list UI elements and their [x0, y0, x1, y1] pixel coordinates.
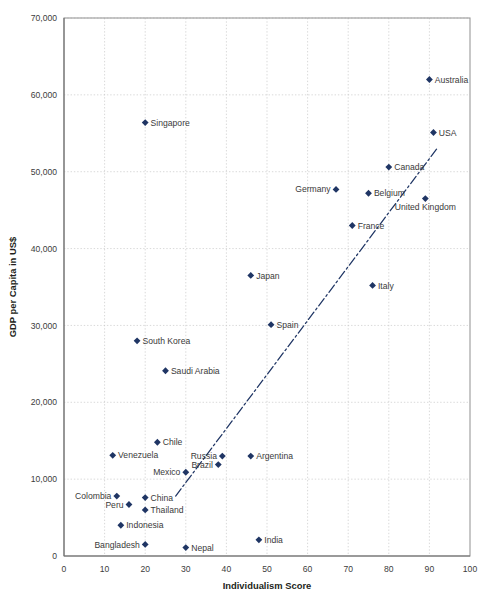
- point-label: India: [264, 535, 283, 545]
- data-point: Bangladesh: [94, 540, 148, 550]
- point-label: Mexico: [153, 467, 180, 477]
- y-tick-label: 40,000: [31, 244, 58, 254]
- point-marker: [385, 164, 392, 171]
- data-point: USA: [430, 128, 457, 138]
- point-marker: [142, 506, 149, 513]
- y-tick-label: 0: [52, 551, 57, 561]
- data-point: Argentina: [247, 451, 293, 461]
- data-point: Canada: [385, 162, 424, 172]
- point-marker: [142, 494, 149, 501]
- point-label: Indonesia: [126, 520, 163, 530]
- y-tick-label: 60,000: [31, 90, 58, 100]
- point-label: United Kingdom: [395, 202, 456, 212]
- point-marker: [134, 337, 141, 344]
- point-label: Nepal: [191, 543, 214, 553]
- point-label: Singapore: [151, 118, 190, 128]
- x-tick-label: 60: [303, 564, 313, 574]
- point-marker: [247, 272, 254, 279]
- data-point: Nepal: [182, 543, 213, 553]
- point-marker: [369, 282, 376, 289]
- data-point: Indonesia: [117, 520, 163, 530]
- point-label: Belgium: [374, 188, 405, 198]
- y-tick-label: 50,000: [31, 167, 58, 177]
- point-label: Germany: [295, 184, 331, 194]
- point-label: Chile: [163, 437, 183, 447]
- point-label: Brazil: [191, 460, 213, 470]
- point-marker: [247, 453, 254, 460]
- point-marker: [162, 367, 169, 374]
- x-tick-label: 50: [262, 564, 272, 574]
- point-marker: [219, 453, 226, 460]
- trendline: [176, 148, 438, 496]
- point-marker: [154, 439, 161, 446]
- point-marker: [333, 186, 340, 193]
- data-point: South Korea: [134, 336, 191, 346]
- point-label: USA: [439, 128, 457, 138]
- point-label: South Korea: [142, 336, 190, 346]
- plot-frame: [64, 18, 470, 556]
- scatter-chart: 010,00020,00030,00040,00050,00060,00070,…: [0, 0, 487, 597]
- point-marker: [255, 536, 262, 543]
- data-point: Italy: [369, 281, 394, 291]
- point-label: Italy: [378, 281, 394, 291]
- data-point: Japan: [247, 271, 279, 281]
- x-tick-label: 80: [384, 564, 394, 574]
- data-point: Venezuela: [109, 450, 158, 460]
- x-tick-label: 0: [62, 564, 67, 574]
- x-tick-label: 90: [425, 564, 435, 574]
- data-point: Belgium: [365, 188, 405, 198]
- x-tick-label: 10: [100, 564, 110, 574]
- point-marker: [182, 544, 189, 551]
- data-points: AustraliaSingaporeUSACanadaGermanyBelgiu…: [75, 75, 468, 553]
- x-tick-label: 20: [140, 564, 150, 574]
- point-marker: [268, 321, 275, 328]
- point-label: Japan: [256, 271, 280, 281]
- point-label: France: [358, 221, 385, 231]
- y-tick-label: 70,000: [31, 13, 58, 23]
- y-tick-label: 20,000: [31, 397, 58, 407]
- y-axis-title: GDP per Capita in US$: [7, 236, 18, 337]
- x-tick-label: 30: [181, 564, 191, 574]
- data-point: Singapore: [142, 118, 190, 128]
- point-label: Argentina: [256, 451, 293, 461]
- x-tick-label: 40: [222, 564, 232, 574]
- point-label: Canada: [394, 162, 424, 172]
- data-point: India: [255, 535, 283, 545]
- data-point: Spain: [268, 320, 299, 330]
- point-label: Thailand: [151, 505, 184, 515]
- point-marker: [349, 222, 356, 229]
- x-tick-label: 100: [463, 564, 478, 574]
- data-point: Saudi Arabia: [162, 366, 220, 376]
- gridlines: [64, 18, 470, 556]
- data-point: France: [349, 221, 385, 231]
- point-label: Saudi Arabia: [171, 366, 220, 376]
- x-axis-ticks: 0102030405060708090100: [62, 564, 478, 574]
- point-label: Australia: [435, 75, 469, 85]
- point-marker: [126, 501, 133, 508]
- data-point: Brazil: [191, 460, 221, 470]
- point-marker: [422, 195, 429, 202]
- x-tick-label: 70: [343, 564, 353, 574]
- data-point: Peru: [105, 500, 132, 510]
- point-marker: [117, 522, 124, 529]
- data-point: Thailand: [142, 505, 184, 515]
- point-marker: [365, 190, 372, 197]
- point-marker: [142, 541, 149, 548]
- point-label: China: [151, 493, 174, 503]
- point-marker: [430, 129, 437, 136]
- point-label: Peru: [105, 500, 123, 510]
- point-label: Bangladesh: [94, 540, 140, 550]
- point-marker: [142, 119, 149, 126]
- point-marker: [109, 452, 116, 459]
- point-marker: [182, 469, 189, 476]
- chart-canvas: 010,00020,00030,00040,00050,00060,00070,…: [0, 0, 487, 597]
- data-point: China: [142, 493, 173, 503]
- data-point: Australia: [426, 75, 468, 85]
- point-marker: [426, 76, 433, 83]
- y-axis-ticks: 010,00020,00030,00040,00050,00060,00070,…: [31, 13, 58, 561]
- point-marker: [215, 461, 222, 468]
- y-tick-label: 10,000: [31, 474, 58, 484]
- x-axis-title: Individualism Score: [223, 580, 312, 591]
- point-label: Venezuela: [118, 450, 158, 460]
- data-point: Germany: [295, 184, 339, 194]
